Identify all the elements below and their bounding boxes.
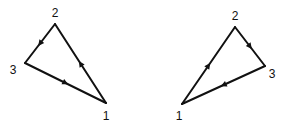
vertex-label-1: 1	[176, 109, 183, 123]
diagram-canvas: 123 123	[0, 0, 286, 124]
right-triangle: 123	[176, 9, 276, 123]
vertex-label-1: 1	[103, 109, 110, 123]
triangle-orientation-diagram: 123 123	[0, 0, 286, 124]
vertex-label-3: 3	[269, 67, 276, 81]
vertex-label-2: 2	[232, 9, 239, 23]
left-triangle: 123	[10, 6, 110, 123]
vertex-label-2: 2	[52, 6, 59, 20]
vertex-label-3: 3	[10, 63, 17, 77]
